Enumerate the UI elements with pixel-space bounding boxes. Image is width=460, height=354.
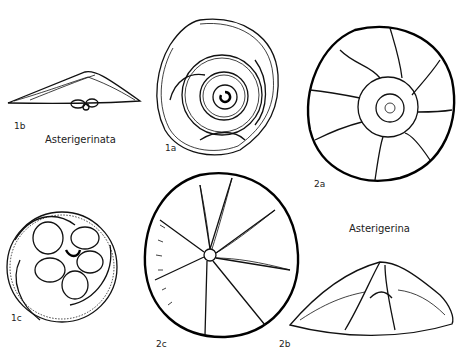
genus-label-asterigerinata: Asterigerinata (45, 134, 116, 145)
figure-label-2c: 2c (156, 339, 167, 349)
figure-2a-drawing (308, 27, 454, 181)
figure-label-2b: 2b (279, 339, 290, 349)
figure-label-1a: 1a (165, 143, 176, 153)
figure-label-1c: 1c (11, 313, 22, 323)
genus-label-asterigerina: Asterigerina (349, 223, 410, 234)
figure-label-1b: 1b (14, 121, 25, 131)
figure-2b-drawing (290, 262, 453, 335)
figure-label-2a: 2a (314, 179, 325, 189)
figure-2c-drawing (145, 173, 298, 337)
plate-drawings (0, 0, 460, 354)
figure-plate: 1b Asterigerinata 1a 2a Asterigerina 1c … (0, 0, 460, 354)
figure-1a-drawing (157, 19, 278, 155)
figure-1b-drawing (8, 72, 140, 110)
figure-1c-drawing (7, 212, 117, 322)
